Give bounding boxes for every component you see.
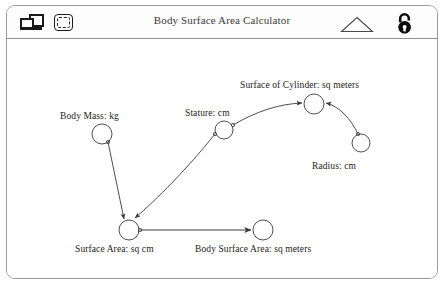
node-label-surface-of-cylinder: Surface of Cylinder: sq meters [240,80,359,90]
title-bar: Body Surface Area Calculator [7,6,437,39]
node-label-radius: Radius: cm [312,161,356,171]
node-label-body-surface-area: Body Surface Area: sq meters [195,244,311,254]
node-stature[interactable] [215,121,233,139]
node-label-surface-area: Surface Area: sq cm [75,244,154,254]
node-surface-of-cylinder[interactable] [304,94,324,114]
node-radius[interactable] [352,134,370,152]
node-surface-area[interactable] [119,220,139,240]
edge-stature-to-surface-of-cylinder [233,103,302,125]
edge-stature-to-surface-area [135,134,215,218]
application-window: Body Surface Area Calculator [6,5,438,279]
edge-body-mass-to-surface-area [108,142,124,219]
unlock-icon[interactable] [394,12,416,35]
diagram-canvas[interactable]: Body Mass: kg Stature: cm Surface of Cyl… [7,39,437,278]
node-label-body-mass: Body Mass: kg [60,111,119,121]
graph-svg [7,39,437,278]
triangle-icon[interactable] [340,16,374,33]
node-label-stature: Stature: cm [185,108,230,118]
edge-radius-to-surface-of-cylinder [326,103,358,134]
node-body-surface-area[interactable] [253,220,273,240]
